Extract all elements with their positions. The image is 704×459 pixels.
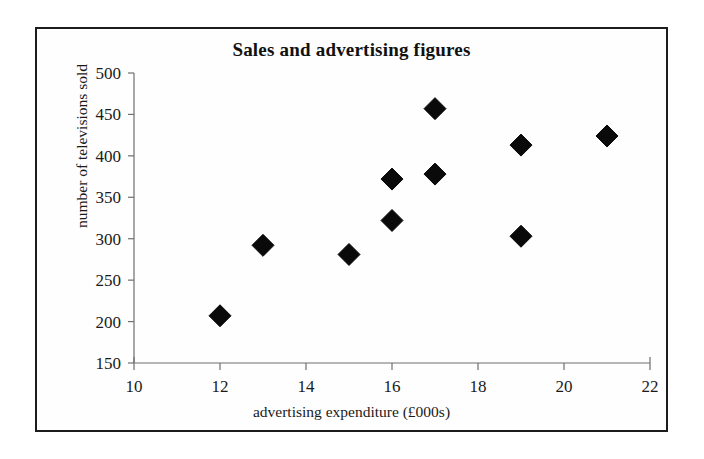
data-point-marker: [424, 98, 446, 120]
y-axis: 150200250300350400450500: [96, 64, 135, 373]
data-point-marker: [424, 163, 446, 185]
data-point-marker: [510, 134, 532, 156]
data-point-marker: [338, 243, 360, 265]
plot-area: 150200250300350400450500 10121416182022: [37, 29, 670, 434]
y-tick-label: 450: [96, 105, 122, 124]
figure-frame: Sales and advertising figures number of …: [35, 27, 668, 432]
x-axis: 10121416182022: [126, 357, 659, 396]
y-tick-label: 150: [96, 354, 122, 373]
x-tick-label: 20: [556, 377, 573, 396]
x-tick-label: 14: [298, 377, 316, 396]
data-point-marker: [381, 209, 403, 231]
data-points: [209, 98, 618, 327]
y-tick-label: 500: [96, 64, 122, 83]
y-tick-label: 350: [96, 188, 122, 207]
data-point-marker: [596, 125, 618, 147]
y-tick-label: 400: [96, 147, 122, 166]
x-tick-label: 16: [384, 377, 401, 396]
data-point-marker: [381, 168, 403, 190]
y-tick-label: 300: [96, 230, 122, 249]
data-point-marker: [209, 305, 231, 327]
x-tick-label: 22: [642, 377, 659, 396]
y-tick-label: 200: [96, 313, 122, 332]
x-tick-label: 10: [126, 377, 143, 396]
x-tick-label: 18: [470, 377, 487, 396]
data-point-marker: [252, 234, 274, 256]
y-tick-label: 250: [96, 271, 122, 290]
x-tick-label: 12: [212, 377, 229, 396]
data-point-marker: [510, 225, 532, 247]
